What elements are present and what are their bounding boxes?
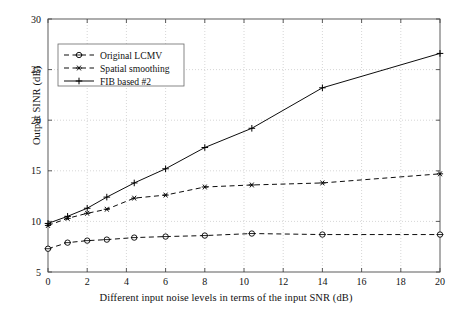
y-tick-label: 10 [31, 216, 41, 227]
y-tick-label: 5 [36, 267, 41, 278]
x-tick-label: 4 [124, 276, 129, 287]
x-axis-label: Different input noise levels in terms of… [0, 292, 452, 303]
x-tick-label: 10 [239, 276, 249, 287]
x-tick-label: 8 [202, 276, 207, 287]
legend-label-1: Spatial smoothing [100, 63, 170, 74]
legend: Original LCMVSpatial smoothingFIB based … [58, 44, 184, 87]
figure: 0246810121416182051015202530Original LCM… [0, 0, 452, 313]
chart-canvas: 0246810121416182051015202530Original LCM… [0, 0, 452, 313]
x-tick-label: 12 [278, 276, 288, 287]
y-tick-label: 30 [31, 14, 41, 25]
x-tick-label: 14 [317, 276, 327, 287]
x-tick-label: 6 [163, 276, 168, 287]
legend-label-2: FIB based #2 [100, 76, 151, 87]
x-tick-label: 20 [435, 276, 445, 287]
legend-label-0: Original LCMV [100, 50, 162, 61]
x-tick-label: 2 [85, 276, 90, 287]
y-axis-label: Output SINR (dB) [31, 26, 42, 186]
x-tick-label: 0 [46, 276, 51, 287]
x-tick-label: 18 [396, 276, 406, 287]
x-tick-label: 16 [357, 276, 367, 287]
